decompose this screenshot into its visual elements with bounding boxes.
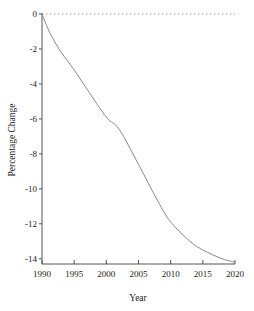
y-tick-label: -14 bbox=[25, 254, 37, 264]
y-tick-label: -8 bbox=[30, 149, 38, 159]
x-tick-label: 2000 bbox=[97, 269, 116, 279]
y-tick-label: -2 bbox=[30, 44, 38, 54]
series-line bbox=[42, 14, 235, 262]
x-axis-label: Year bbox=[129, 293, 147, 303]
chart-svg: 0-2-4-6-8-10-12-14 199019952000200520102… bbox=[0, 0, 254, 311]
y-tick-label: -4 bbox=[30, 79, 38, 89]
x-tick-label: 2015 bbox=[194, 269, 213, 279]
x-tick-label: 1995 bbox=[65, 269, 84, 279]
y-axis-ticks: 0-2-4-6-8-10-12-14 bbox=[25, 9, 42, 264]
x-tick-label: 2010 bbox=[162, 269, 181, 279]
x-tick-label: 2005 bbox=[130, 269, 149, 279]
y-tick-label: 0 bbox=[33, 9, 38, 19]
axes bbox=[42, 13, 235, 264]
y-tick-label: -10 bbox=[25, 184, 37, 194]
data-series bbox=[42, 14, 235, 262]
y-tick-label: -12 bbox=[25, 219, 37, 229]
y-tick-label: -6 bbox=[30, 114, 38, 124]
x-axis-ticks: 1990199520002005201020152020 bbox=[33, 260, 245, 279]
x-tick-label: 1990 bbox=[33, 269, 52, 279]
y-axis-label: Percentage Change bbox=[7, 103, 17, 176]
line-chart: 0-2-4-6-8-10-12-14 199019952000200520102… bbox=[0, 0, 254, 311]
x-tick-label: 2020 bbox=[226, 269, 245, 279]
